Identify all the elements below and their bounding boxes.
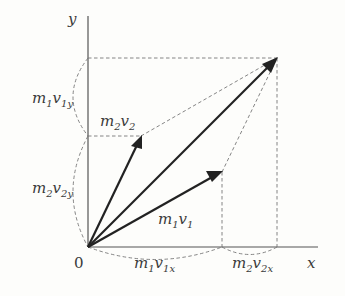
m2v2x-brace xyxy=(222,247,277,255)
m1v1y-label: m1v1y xyxy=(32,89,73,109)
x-axis-label: x xyxy=(307,254,316,272)
m2v2-label: m2v2 xyxy=(100,112,135,132)
origin-label: 0 xyxy=(74,254,84,272)
m2v2y-brace xyxy=(73,136,88,247)
y-axis-label: y xyxy=(67,10,77,28)
m1v1x-label: m1v1x xyxy=(134,254,175,274)
m1v1-arrowhead xyxy=(206,171,223,182)
m1v1-vector xyxy=(88,176,214,247)
m1v1-label: m1v1 xyxy=(158,210,193,230)
parallelogram-side-right xyxy=(222,58,277,172)
m2v2-arrowhead xyxy=(131,135,142,149)
m1v1y-brace xyxy=(73,58,88,136)
m2v2x-label: m2v2x xyxy=(232,254,273,274)
parallelogram-side-top xyxy=(141,58,277,136)
m2v2-vector xyxy=(88,145,137,247)
momentum-vector-diagram: y x 0 m1v1y m2v2y m2v2 m1v1 m1v1x m2v2x xyxy=(0,0,345,296)
m2v2y-label: m2v2y xyxy=(32,179,73,199)
